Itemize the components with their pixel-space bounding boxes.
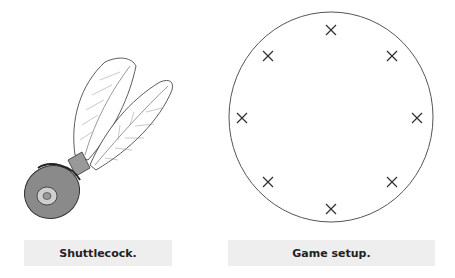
game-setup-diagram	[0, 0, 455, 230]
player-marker-icon	[412, 113, 422, 123]
player-marker-icon	[263, 51, 273, 61]
caption-shuttlecock: Shuttlecock.	[59, 247, 136, 260]
player-markers	[237, 25, 422, 214]
player-marker-icon	[263, 177, 273, 187]
player-marker-icon	[387, 51, 397, 61]
player-marker-icon	[387, 177, 397, 187]
player-circle	[229, 12, 433, 222]
caption-game-setup-box: Game setup.	[228, 240, 435, 266]
player-marker-icon	[326, 204, 336, 214]
caption-game-setup: Game setup.	[292, 247, 370, 260]
player-marker-icon	[326, 25, 336, 35]
caption-shuttlecock-box: Shuttlecock.	[24, 240, 172, 266]
player-marker-icon	[237, 113, 247, 123]
